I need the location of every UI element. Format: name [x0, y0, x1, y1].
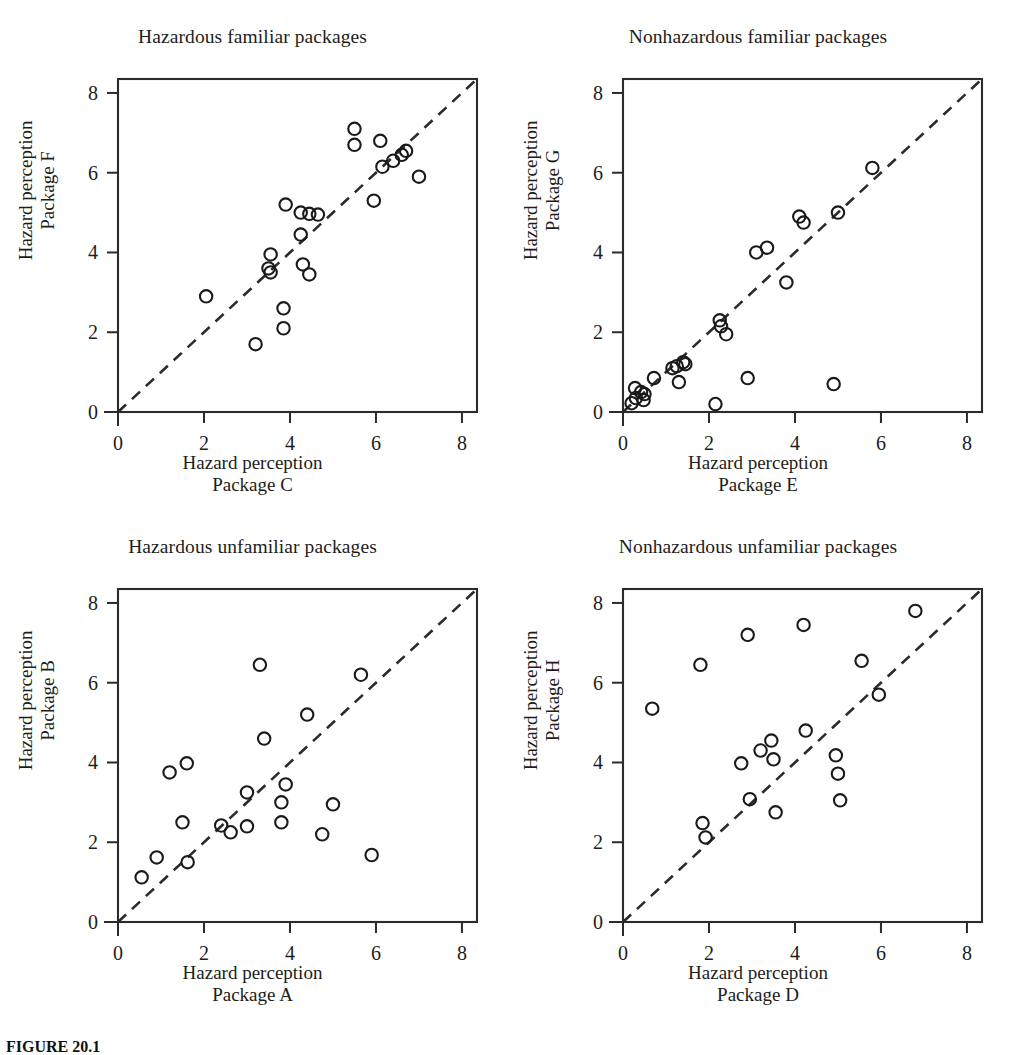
data-point [275, 796, 287, 808]
identity-reference-line [118, 589, 477, 922]
y-axis-tick-label: 6 [593, 162, 603, 184]
data-point [780, 276, 792, 288]
data-point [709, 398, 721, 410]
data-point [135, 871, 147, 883]
y-axis-tick-label: 0 [88, 911, 98, 933]
scatter-plot: 0246802468 [505, 510, 1010, 1020]
x-axis-tick-label: 8 [962, 942, 972, 964]
data-point [241, 786, 253, 798]
data-point [368, 194, 380, 206]
x-axis-tick-label: 0 [113, 432, 123, 454]
y-axis-tick-label: 2 [593, 831, 603, 853]
data-point [673, 376, 685, 388]
identity-reference-line [623, 589, 982, 922]
data-point [855, 655, 867, 667]
y-axis-tick-label: 6 [593, 672, 603, 694]
data-point [150, 851, 162, 863]
data-point [181, 856, 193, 868]
x-axis-tick-label: 4 [285, 942, 295, 964]
data-point [200, 290, 212, 302]
figure-caption: FIGURE 20.1 [6, 1038, 1006, 1055]
data-point [254, 659, 266, 671]
data-point [279, 198, 291, 210]
data-point [765, 734, 777, 746]
data-point [374, 135, 386, 147]
x-axis-tick-label: 2 [199, 942, 209, 964]
x-axis-caption: Hazard perception Package D [505, 962, 1011, 1007]
y-axis-tick-label: 0 [88, 401, 98, 423]
scatter-plot: 0246802468 [0, 510, 505, 1020]
x-axis-caption-line2: Package E [505, 474, 1011, 496]
x-axis-caption-line1: Hazard perception [688, 452, 828, 473]
data-point [741, 629, 753, 641]
figure-root: Hazardous familiar packages 0246802468 H… [0, 0, 1011, 1055]
y-axis-caption-line2: Package G [542, 45, 564, 335]
data-point [355, 669, 367, 681]
x-axis-caption-line2: Package A [0, 984, 505, 1006]
data-point [277, 322, 289, 334]
data-point [275, 816, 287, 828]
data-point [827, 378, 839, 390]
x-axis-tick-label: 8 [962, 432, 972, 454]
y-axis-caption: Hazard perception Package G [520, 45, 565, 335]
x-axis-caption-line2: Package C [0, 474, 505, 496]
x-axis-tick-label: 2 [704, 942, 714, 964]
data-point [754, 744, 766, 756]
x-axis-tick-label: 6 [371, 942, 381, 964]
x-axis-tick-label: 4 [790, 942, 800, 964]
identity-reference-line [118, 79, 477, 412]
x-axis-caption-line1: Hazard perception [688, 962, 828, 983]
data-point [264, 266, 276, 278]
data-point [301, 708, 313, 720]
y-axis-caption-line1: Hazard perception [15, 631, 36, 771]
y-axis-caption: Hazard perception Package H [520, 555, 565, 845]
data-point [832, 767, 844, 779]
y-axis-tick-label: 4 [88, 241, 98, 263]
y-axis-tick-label: 4 [593, 241, 603, 263]
x-axis-caption: Hazard perception Package C [0, 452, 505, 497]
data-point [699, 831, 711, 843]
y-axis-tick-label: 6 [88, 672, 98, 694]
data-point [735, 757, 747, 769]
y-axis-caption-line1: Hazard perception [520, 121, 541, 261]
y-axis-caption-line2: Package F [37, 45, 59, 335]
data-point [800, 724, 812, 736]
y-axis-tick-label: 0 [593, 911, 603, 933]
data-point [694, 659, 706, 671]
data-point [264, 248, 276, 260]
data-point [909, 605, 921, 617]
y-axis-tick-label: 8 [88, 592, 98, 614]
y-axis-tick-label: 4 [593, 751, 603, 773]
x-axis-tick-label: 8 [457, 432, 467, 454]
y-axis-tick-label: 2 [88, 321, 98, 343]
data-point [249, 338, 261, 350]
data-point [163, 766, 175, 778]
x-axis-tick-label: 0 [113, 942, 123, 964]
panel-hazardous-familiar: Hazardous familiar packages 0246802468 H… [0, 0, 505, 510]
y-axis-tick-label: 8 [593, 82, 603, 104]
data-point [696, 817, 708, 829]
data-point [797, 619, 809, 631]
data-point [830, 749, 842, 761]
y-axis-caption-line2: Package B [37, 555, 59, 845]
data-point [646, 702, 658, 714]
data-point [176, 816, 188, 828]
x-axis-caption-line2: Package D [505, 984, 1011, 1006]
y-axis-caption-line1: Hazard perception [15, 121, 36, 261]
data-point [761, 241, 773, 253]
x-axis-tick-label: 6 [876, 942, 886, 964]
data-point [316, 828, 328, 840]
x-axis-caption: Hazard perception Package A [0, 962, 505, 1007]
x-axis-tick-label: 4 [285, 432, 295, 454]
data-point [834, 794, 846, 806]
data-point [277, 302, 289, 314]
figure-caption-label: FIGURE 20.1 [6, 1038, 100, 1055]
data-point [295, 228, 307, 240]
data-point [365, 849, 377, 861]
x-axis-tick-label: 2 [199, 432, 209, 454]
data-point [413, 171, 425, 183]
x-axis-tick-label: 0 [618, 432, 628, 454]
data-point [224, 826, 236, 838]
data-point [348, 123, 360, 135]
data-point [279, 778, 291, 790]
